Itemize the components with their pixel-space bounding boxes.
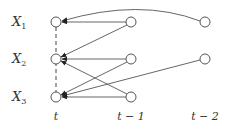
node-x2-t-1: [126, 54, 136, 64]
edge-x1t1-to-x2t: [61, 25, 127, 57]
time-label-t-2: t − 2: [191, 110, 219, 123]
dbn-diagram: X1 X2 X3 t t − 1 t − 2: [0, 0, 228, 128]
edge-x2t2-to-x3t: [62, 60, 200, 96]
time-label-t: t: [54, 110, 59, 123]
node-x3-t: [51, 92, 61, 102]
row-label-x2: X2: [11, 51, 26, 68]
node-x1-t-1: [126, 17, 136, 27]
node-x1-t: [51, 17, 61, 27]
node-x1-t-2: [200, 17, 210, 27]
row-label-x3: X3: [11, 89, 26, 106]
node-x3-t-1: [126, 92, 136, 102]
time-label-t-1: t − 1: [117, 110, 145, 123]
node-x2-t: [51, 54, 61, 64]
edge-x2t1-to-x3t: [61, 62, 127, 95]
row-label-x1: X1: [11, 14, 26, 31]
edge-x3t1-to-x2t: [61, 61, 127, 94]
node-x2-t-2: [200, 54, 210, 64]
